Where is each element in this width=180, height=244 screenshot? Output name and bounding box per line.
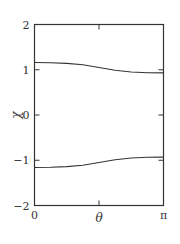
x-axis-label: θ (95, 211, 103, 225)
x-tick-label: π (160, 209, 167, 222)
y-tick-label: 1 (23, 64, 30, 77)
y-tick-label: −2 (13, 200, 29, 213)
y-tick-label: 0 (23, 109, 30, 122)
y-axis-label: χ (9, 111, 23, 120)
y-tick-label: −1 (13, 154, 29, 167)
chart: 210−1−20πθχ (0, 0, 180, 244)
data-line (35, 157, 164, 167)
data-line (35, 63, 164, 73)
x-tick-label: 0 (31, 209, 38, 222)
axes-frame (35, 25, 164, 206)
y-tick-label: 2 (23, 19, 30, 32)
plot-area: 210−1−20πθχ (9, 19, 167, 226)
